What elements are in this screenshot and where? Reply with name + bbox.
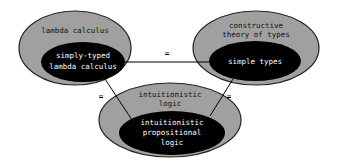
label-propositional-1: intuitionistic [140,118,203,127]
edge-label-lambda-types: = [165,49,170,58]
node-constructive-theory: constructive theory of types simple type… [193,11,319,85]
label-intuitionistic-1: intuitionistic [138,90,201,99]
edge-label-lambda-logic: = [99,92,104,101]
label-propositional-3: logic [161,138,184,147]
node-intuitionistic-logic: intuitionistic logic intuitionistic prop… [99,83,241,157]
label-constructive-1: constructive [229,21,284,30]
label-simply-typed-2: lambda calculus [49,62,117,71]
node-lambda-calculus: lambda calculus simply-typed lambda calc… [19,11,131,85]
label-lambda-calculus: lambda calculus [41,26,109,35]
diagram-canvas: lambda calculus simply-typed lambda calc… [0,0,337,165]
label-constructive-2: theory of types [222,30,290,39]
edge-label-types-logic: = [227,92,232,101]
label-propositional-2: propositional [143,128,202,137]
label-simply-typed-1: simply-typed [56,51,110,60]
label-simple-types: simple types [228,57,282,66]
label-intuitionistic-2: logic [159,99,182,108]
